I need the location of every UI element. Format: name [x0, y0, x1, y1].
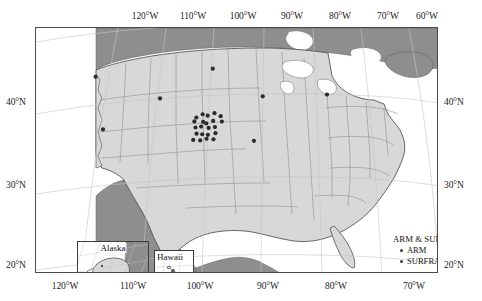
legend-label-arm: ARM	[407, 245, 427, 256]
hawaii-inset-label: Hawaii	[156, 252, 184, 262]
legend-title: ARM & SURFRAD	[393, 234, 438, 245]
arm-site-10	[193, 125, 197, 129]
arm-site-1	[201, 112, 205, 116]
lat-label-left-0: 40°N	[6, 97, 26, 107]
arm-site-16	[206, 133, 210, 137]
lat-label-left-2: 20°N	[6, 260, 26, 270]
arm-site-15	[200, 132, 204, 136]
surfrad-site-5	[252, 139, 256, 143]
lat-label-left-1: 30°N	[6, 180, 26, 190]
surfrad-site-1	[158, 96, 162, 100]
lon-label-top-3: 90°W	[281, 11, 303, 21]
lat-label-right-0: 40°N	[444, 97, 464, 107]
lon-label-top-2: 100°W	[230, 11, 257, 21]
arm-site-20	[204, 137, 208, 141]
surfrad-site-3	[261, 94, 265, 98]
lon-label-bottom-1: 110°W	[120, 281, 146, 291]
surfrad-marker-icon	[400, 260, 403, 263]
arm-site-17	[213, 131, 217, 135]
lon-label-bottom-2: 100°W	[187, 281, 214, 291]
map-plot-area: ARM & SURFRAD ARM SURFRAD 01503006009001…	[35, 27, 438, 273]
lon-label-bottom-4: 80°W	[325, 281, 347, 291]
arm-site-13	[213, 125, 217, 129]
map-figure: 120°W110°W100°W90°W80°W70°W60°W 120°W110…	[0, 0, 482, 301]
arm-site-2	[206, 114, 210, 118]
lat-label-right-1: 30°N	[444, 180, 464, 190]
arm-site-5	[192, 119, 196, 123]
arm-site-21	[211, 137, 215, 141]
alaska-inset-map: Alaska	[77, 241, 149, 273]
alaska-arm-site	[101, 265, 103, 267]
legend-entry-surfrad: SURFRAD	[393, 256, 438, 267]
lon-label-top-4: 80°W	[329, 11, 351, 21]
hawaii-site-marker	[172, 270, 174, 272]
lon-label-top-5: 70°W	[377, 11, 399, 21]
surfrad-site-2	[101, 127, 105, 131]
legend-label-surfrad: SURFRAD	[407, 256, 438, 267]
arm-site-14	[194, 132, 198, 136]
arm-site-4	[219, 114, 223, 118]
lon-label-bottom-0: 120°W	[52, 281, 79, 291]
arm-marker-icon	[400, 249, 403, 252]
map-graphics	[36, 28, 438, 273]
surfrad-site-6	[211, 67, 215, 71]
arm-site-3	[212, 111, 216, 115]
surfrad-site-4	[325, 92, 329, 96]
alaska-inset-label: Alaska	[100, 243, 127, 253]
lon-label-bottom-3: 90°W	[257, 281, 279, 291]
legend-entry-arm: ARM	[393, 245, 438, 256]
arm-site-19	[198, 138, 202, 142]
hawaii-inset-map: Hawaii	[154, 250, 194, 273]
arm-site-12	[207, 126, 211, 130]
lon-label-top-0: 120°W	[132, 11, 159, 21]
lon-label-top-6: 60°W	[416, 11, 438, 21]
arm-site-8	[211, 119, 215, 123]
lon-label-bottom-5: 70°W	[403, 281, 425, 291]
surfrad-site-0	[93, 75, 97, 79]
map-legend: ARM & SURFRAD ARM SURFRAD	[393, 234, 438, 267]
lat-label-right-2: 20°N	[444, 260, 464, 270]
arm-site-11	[199, 124, 203, 128]
arm-site-0	[194, 115, 198, 119]
lon-label-top-1: 110°W	[180, 11, 206, 21]
arm-site-9	[220, 119, 224, 123]
arm-site-7	[204, 121, 208, 125]
arm-site-18	[191, 138, 195, 142]
